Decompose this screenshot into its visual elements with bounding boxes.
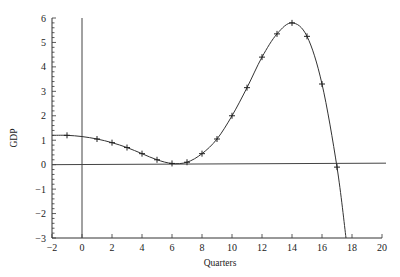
y-tick-label: −1 (35, 184, 46, 195)
y-tick-label: 6 (41, 13, 46, 24)
axes: −3−2−10123456−202468101214161820 (35, 13, 387, 254)
zero-line-horizontal (52, 163, 386, 165)
x-tick-label: 2 (110, 242, 115, 253)
y-tick-label: 1 (41, 135, 46, 146)
y-tick-label: 3 (41, 86, 46, 97)
data-point-marker (124, 145, 130, 151)
reference-lines (52, 18, 386, 238)
y-tick-label: −2 (35, 208, 46, 219)
gdp-line (52, 23, 346, 238)
y-axis-label: GDP (9, 128, 19, 147)
data-point-marker (64, 132, 70, 138)
gdp-chart: −3−2−10123456−202468101214161820 Quarter… (0, 0, 400, 277)
data-point-marker (319, 81, 325, 87)
x-tick-label: 14 (287, 242, 297, 253)
x-tick-label: −2 (47, 242, 58, 253)
x-tick-label: 20 (377, 242, 387, 253)
data-point-marker (289, 20, 295, 26)
y-tick-label: −3 (35, 233, 46, 244)
data-point-marker (334, 164, 340, 170)
data-point-marker (139, 151, 145, 157)
data-point-marker (259, 54, 265, 60)
series-gdp (52, 20, 346, 238)
x-tick-label: 8 (200, 242, 205, 253)
x-tick-label: 10 (227, 242, 237, 253)
data-point-marker (304, 33, 310, 39)
data-point-marker (109, 140, 115, 146)
y-tick-label: 2 (41, 110, 46, 121)
y-tick-label: 4 (41, 61, 46, 72)
x-tick-label: 4 (140, 242, 145, 253)
x-tick-label: 12 (257, 242, 267, 253)
x-tick-label: 6 (170, 242, 175, 253)
data-point-marker (244, 85, 250, 91)
x-tick-label: 0 (80, 242, 85, 253)
y-tick-label: 0 (41, 159, 46, 170)
data-point-marker (229, 113, 235, 119)
data-point-marker (169, 160, 175, 166)
data-point-marker (154, 157, 160, 163)
y-tick-label: 5 (41, 37, 46, 48)
x-tick-label: 18 (347, 242, 357, 253)
x-axis-label: Quarters (204, 258, 237, 268)
x-tick-label: 16 (317, 242, 327, 253)
data-point-marker (94, 136, 100, 142)
